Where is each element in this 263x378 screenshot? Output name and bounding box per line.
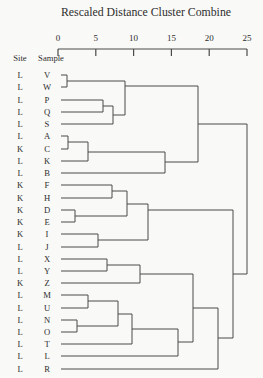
site-label: L bbox=[17, 315, 22, 325]
site-label: L bbox=[17, 351, 22, 361]
sample-label: O bbox=[44, 327, 50, 337]
sample-label: D bbox=[44, 205, 50, 215]
site-label: L bbox=[17, 327, 22, 337]
site-label: L bbox=[17, 95, 22, 105]
site-column-header: Site bbox=[13, 53, 27, 63]
site-label: L bbox=[17, 339, 22, 349]
site-label: L bbox=[17, 303, 22, 313]
site-label: L bbox=[17, 70, 22, 80]
dendrogram-page: Rescaled Distance Cluster Combine Site S… bbox=[0, 0, 263, 378]
axis-tick-label: 0 bbox=[56, 33, 61, 43]
site-label: K bbox=[17, 144, 24, 154]
site-label: K bbox=[17, 229, 24, 239]
sample-label: P bbox=[45, 95, 50, 105]
sample-label: U bbox=[44, 303, 51, 313]
site-label: L bbox=[17, 266, 22, 276]
axis-tick-label: 20 bbox=[205, 33, 215, 43]
distance-axis: 0510152025 bbox=[56, 33, 252, 56]
sample-label: T bbox=[44, 339, 50, 349]
sample-label: L bbox=[44, 351, 49, 361]
site-label: L bbox=[17, 82, 22, 92]
sample-label: R bbox=[44, 364, 50, 374]
site-label: K bbox=[17, 217, 24, 227]
sample-label: C bbox=[44, 144, 50, 154]
site-label: L bbox=[17, 290, 22, 300]
sample-label: E bbox=[44, 217, 49, 227]
axis-tick-label: 15 bbox=[167, 33, 177, 43]
sample-label: K bbox=[44, 156, 51, 166]
sample-label: W bbox=[43, 82, 52, 92]
sample-label: X bbox=[44, 254, 51, 264]
sample-label: F bbox=[45, 180, 50, 190]
site-label: L bbox=[17, 156, 22, 166]
sample-label: N bbox=[44, 315, 51, 325]
sample-label: A bbox=[44, 131, 51, 141]
leaf-labels: LVLWLPLQLSLAKCLKLBKFKHKDKEKILJLXLYKZLMLU… bbox=[17, 70, 52, 374]
dendrogram-plot: Rescaled Distance Cluster Combine Site S… bbox=[0, 0, 263, 378]
chart-title: Rescaled Distance Cluster Combine bbox=[61, 5, 231, 19]
axis-tick-label: 25 bbox=[243, 33, 253, 43]
sample-label: H bbox=[44, 193, 50, 203]
site-label: L bbox=[17, 119, 22, 129]
site-label: K bbox=[17, 180, 24, 190]
sample-label: Y bbox=[44, 266, 50, 276]
site-label: L bbox=[17, 168, 22, 178]
sample-label: M bbox=[43, 290, 51, 300]
axis-tick-label: 10 bbox=[129, 33, 139, 43]
site-label: K bbox=[17, 278, 24, 288]
site-label: L bbox=[17, 364, 22, 374]
site-label: K bbox=[17, 193, 24, 203]
sample-label: B bbox=[44, 168, 50, 178]
site-label: L bbox=[17, 131, 22, 141]
sample-label: V bbox=[44, 70, 51, 80]
dendrogram-tree bbox=[61, 75, 247, 369]
sample-column-header: Sample bbox=[38, 53, 64, 63]
sample-label: S bbox=[45, 119, 50, 129]
sample-label: J bbox=[45, 242, 49, 252]
axis-tick-label: 5 bbox=[94, 33, 99, 43]
site-label: L bbox=[17, 254, 22, 264]
site-label: L bbox=[17, 242, 22, 252]
sample-label: I bbox=[46, 229, 49, 239]
site-label: K bbox=[17, 205, 24, 215]
sample-label: Z bbox=[44, 278, 49, 288]
sample-label: Q bbox=[44, 107, 51, 117]
site-label: L bbox=[17, 107, 22, 117]
